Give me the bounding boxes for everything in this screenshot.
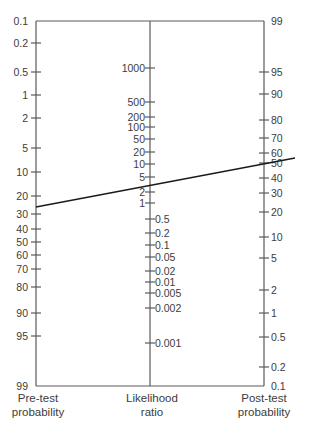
likelihood-ratio-tick-label: 0.005: [155, 287, 181, 299]
pre-test-tick-label: 95: [16, 330, 28, 342]
post-test-tick-label: 40: [271, 172, 283, 184]
pre-test-title-line1: Pre-test: [18, 392, 59, 404]
likelihood-ratio-tick-label: 1000: [122, 62, 146, 74]
pre-test-tick-label: 30: [16, 208, 28, 220]
likelihood-ratio-tick-label: 10: [133, 158, 145, 170]
likelihood-ratio-tick-label: 50: [133, 133, 145, 145]
post-test-tick-label: 0.1: [271, 380, 286, 392]
likelihood-ratio-tick-label: 1: [139, 197, 145, 209]
pre-test-tick-label: 0.5: [13, 66, 28, 78]
post-test-tick-label: 70: [271, 132, 283, 144]
post-test-tick-label: 30: [271, 187, 283, 199]
pre-test-tick-label: 60: [16, 249, 28, 261]
likelihood-ratio-tick-label: 0.5: [155, 213, 170, 225]
likelihood-ratio-tick-label: 0.1: [155, 239, 170, 251]
pre-test-tick-label: 0.2: [13, 37, 28, 49]
likelihood-ratio-tick-label: 100: [127, 121, 145, 133]
likelihood-ratio-tick-label: 0.05: [155, 251, 176, 263]
post-test-tick-label: 99: [271, 15, 283, 27]
pre-test-tick-label: 5: [22, 142, 28, 154]
likelihood-ratio-title-line1: Likelihood: [126, 392, 178, 404]
likelihood-ratio-tick-label: 20: [133, 146, 145, 158]
post-test-title-line1: Post-test: [241, 392, 287, 404]
post-test-tick-label: 1: [271, 307, 277, 319]
post-test-tick-label: 95: [271, 66, 283, 78]
likelihood-ratio-tick-label: 0.2: [155, 227, 170, 239]
pre-test-tick-label: 80: [16, 281, 28, 293]
post-test-tick-label: 20: [271, 206, 283, 218]
likelihood-ratio-tick-label: 5: [139, 171, 145, 183]
pre-test-tick-label: 40: [16, 223, 28, 235]
post-test-tick-label: 0.5: [271, 331, 286, 343]
likelihood-ratio-tick-label: 0.002: [155, 302, 181, 314]
pre-test-tick-label: 0.1: [13, 15, 28, 27]
pre-test-title-line2: probability: [12, 406, 65, 418]
post-test-title-line2: probability: [238, 406, 291, 418]
post-test-tick-label: 80: [271, 114, 283, 126]
post-test-ticks: 99959080706050403020105210.50.20.1: [259, 15, 286, 392]
likelihood-ratio-ticks: 10005002001005020105210.50.20.10.050.020…: [122, 62, 182, 349]
pre-test-tick-label: 99: [16, 380, 28, 392]
post-test-tick-label: 10: [271, 231, 283, 243]
pre-test-tick-label: 10: [16, 166, 28, 178]
pre-test-tick-label: 2: [22, 112, 28, 124]
pre-test-tick-label: 1: [22, 89, 28, 101]
example-probability-line: [36, 158, 295, 207]
likelihood-ratio-title-line2: ratio: [141, 406, 163, 418]
likelihood-ratio-tick-label: 0.001: [155, 337, 181, 349]
post-test-tick-label: 5: [271, 252, 277, 264]
post-test-tick-label: 90: [271, 88, 283, 100]
post-test-tick-label: 2: [271, 284, 277, 296]
pre-test-tick-label: 50: [16, 236, 28, 248]
pre-test-tick-label: 90: [16, 307, 28, 319]
likelihood-ratio-tick-label: 500: [127, 96, 145, 108]
pre-test-tick-label: 20: [16, 190, 28, 202]
pre-test-ticks: 0.10.20.51251020304050607080909599: [13, 15, 41, 392]
fagan-nomogram: 0.10.20.51251020304050607080909599 10005…: [0, 0, 312, 429]
post-test-tick-label: 50: [271, 157, 283, 169]
pre-test-tick-label: 70: [16, 263, 28, 275]
post-test-tick-label: 0.2: [271, 361, 286, 373]
